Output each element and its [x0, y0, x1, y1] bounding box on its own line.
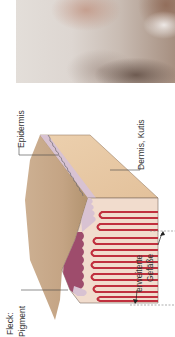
- label-vessels-line2: Gefäße: [145, 254, 155, 282]
- label-pigment: Pigment: [17, 306, 27, 337]
- skin-diagram: Epidermis Dermis, Kutis erweiterte Gefäß…: [0, 85, 175, 337]
- label-vessels-line1: erweiterte: [134, 255, 144, 292]
- label-dermis-kutis: Dermis, Kutis: [136, 119, 146, 170]
- arrow-up-icon: [160, 231, 165, 236]
- skin-photo: [16, 0, 175, 83]
- label-fleck: Fleck:: [5, 312, 15, 335]
- label-epidermis: Epidermis: [16, 110, 26, 148]
- skin-block-illustration: [0, 85, 175, 337]
